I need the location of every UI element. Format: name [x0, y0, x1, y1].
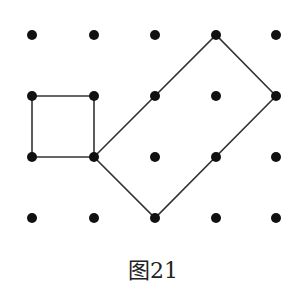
- grid-dot: [271, 152, 281, 162]
- grid-dot: [271, 213, 281, 223]
- figure-caption: 图21: [0, 252, 306, 284]
- grid-dot: [89, 152, 99, 162]
- grid-dot: [211, 91, 221, 101]
- grid-dot: [27, 91, 37, 101]
- square: [32, 96, 94, 157]
- grid-dot: [89, 30, 99, 40]
- grid-dot: [150, 213, 160, 223]
- grid-dot: [89, 91, 99, 101]
- tilted-rectangle: [94, 35, 276, 218]
- grid-dot: [150, 91, 160, 101]
- grid-dot: [211, 213, 221, 223]
- grid-dot: [150, 152, 160, 162]
- dots-layer: [27, 30, 281, 223]
- grid-dot: [271, 30, 281, 40]
- grid-dot: [211, 30, 221, 40]
- grid-dot: [211, 152, 221, 162]
- grid-dot: [27, 152, 37, 162]
- grid-dot: [89, 213, 99, 223]
- grid-dot: [27, 30, 37, 40]
- grid-dot: [271, 91, 281, 101]
- shapes-layer: [32, 35, 276, 218]
- grid-dot: [150, 30, 160, 40]
- grid-dot: [27, 213, 37, 223]
